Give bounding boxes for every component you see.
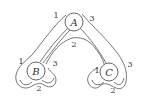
node-b-label: B xyxy=(31,66,39,77)
diagram-canvas: A 1 3 2 B 1 3 2 C 1 3 2 xyxy=(0,0,144,102)
tube-b-lobe xyxy=(20,80,32,85)
node-b-port-3: 3 xyxy=(52,59,57,68)
node-a: A 1 3 2 xyxy=(53,11,94,49)
tube-a-b-inner xyxy=(40,28,68,62)
node-a-label: A xyxy=(69,17,77,28)
node-a-port-1: 1 xyxy=(53,11,58,20)
node-c-label: C xyxy=(105,67,113,78)
node-c-port-1: 1 xyxy=(94,66,99,75)
node-c-port-3: 3 xyxy=(127,60,132,69)
tube-c-lobe-2 xyxy=(114,78,124,85)
node-c-port-2: 2 xyxy=(110,86,115,95)
node-a-port-3: 3 xyxy=(89,14,94,23)
node-b-port-2: 2 xyxy=(36,84,41,93)
tube-b-lobe-2 xyxy=(42,78,54,83)
node-a-port-2: 2 xyxy=(71,40,76,49)
node-b-port-1: 1 xyxy=(18,57,23,66)
